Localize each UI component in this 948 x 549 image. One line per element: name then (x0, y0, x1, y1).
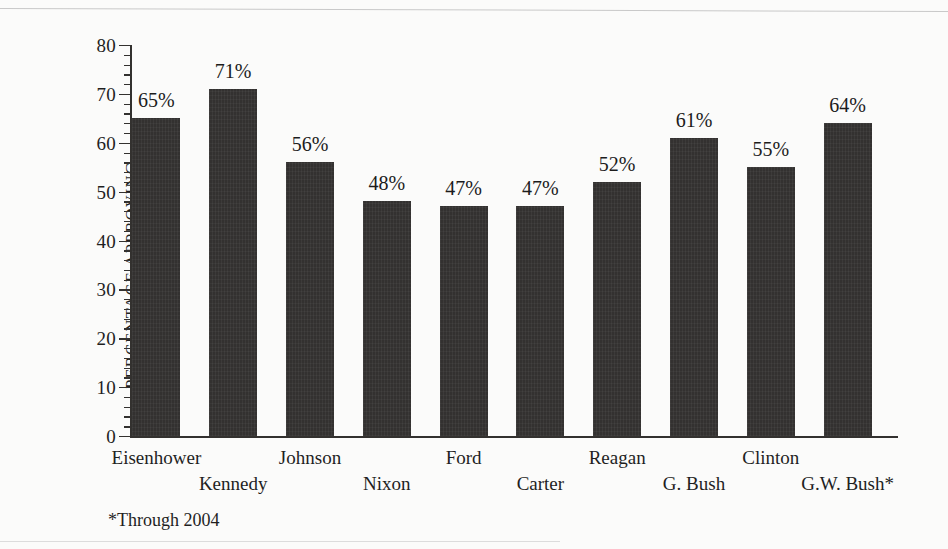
bar-value-label: 55% (752, 139, 789, 159)
y-tick-minor (124, 172, 130, 173)
bar-value-label: 52% (599, 154, 636, 174)
y-axis-line (130, 45, 132, 436)
y-tick-major (119, 45, 130, 46)
y-tick-minor (124, 123, 130, 124)
bar-value-label: 47% (445, 178, 482, 198)
y-tick-minor (124, 270, 130, 271)
bar (593, 182, 641, 436)
y-tick-minor (124, 201, 130, 202)
y-tick-label: 80 (96, 36, 116, 55)
y-tick-minor (124, 407, 130, 408)
y-tick-label: 0 (106, 427, 116, 446)
y-tick-label: 60 (96, 133, 116, 152)
y-tick-minor (124, 104, 130, 105)
bar-value-label: 47% (522, 178, 559, 198)
x-axis-label: Kennedy (199, 474, 268, 493)
x-axis-label: Ford (446, 448, 482, 467)
y-tick-minor (124, 319, 130, 320)
y-tick-major (119, 338, 130, 339)
x-axis-label: G. Bush (663, 474, 725, 493)
y-tick-minor (124, 221, 130, 222)
x-axis-label: Eisenhower (112, 448, 202, 467)
y-tick-minor (124, 250, 130, 251)
plot-area: 01020304050607080 65%71%56%48%47%47%52%6… (130, 45, 898, 436)
y-tick-minor (124, 328, 130, 329)
x-axis-label: Carter (517, 474, 564, 493)
bar-value-label: 64% (829, 95, 866, 115)
x-axis-line (130, 436, 898, 438)
y-tick-minor (124, 113, 130, 114)
y-tick-minor (124, 260, 130, 261)
bar-value-label: 61% (676, 110, 713, 130)
footnote: *Through 2004 (108, 511, 220, 529)
y-tick-minor (124, 309, 130, 310)
y-tick-minor (124, 416, 130, 417)
x-axis-label: Reagan (589, 448, 646, 467)
bar (747, 167, 795, 436)
y-tick-minor (124, 65, 130, 66)
y-tick-minor (124, 368, 130, 369)
x-axis-label: Clinton (742, 448, 799, 467)
y-tick-minor (124, 153, 130, 154)
y-tick-major (119, 143, 130, 144)
y-tick-minor (124, 377, 130, 378)
bar-value-label: 56% (292, 134, 329, 154)
bar (670, 138, 718, 436)
y-tick-minor (124, 74, 130, 75)
y-tick-label: 30 (96, 280, 116, 299)
bar (824, 123, 872, 436)
y-tick-minor (124, 358, 130, 359)
y-tick-minor (124, 231, 130, 232)
bar-value-label: 71% (215, 61, 252, 81)
bar (132, 118, 180, 436)
y-tick-label: 40 (96, 231, 116, 250)
y-tick-label: 10 (96, 378, 116, 397)
x-axis-label: Johnson (279, 448, 341, 467)
y-tick-minor (124, 426, 130, 427)
bottom-divider (0, 541, 560, 542)
y-tick-minor (124, 211, 130, 212)
y-tick-label: 20 (96, 329, 116, 348)
y-tick-major (119, 289, 130, 290)
bar (209, 89, 257, 436)
bar-value-label: 65% (138, 90, 175, 110)
bar (286, 162, 334, 436)
y-tick-minor (124, 162, 130, 163)
x-axis-label: Nixon (363, 474, 411, 493)
y-tick-label: 70 (96, 84, 116, 103)
chart-page: PERCENTAGE APPROVING 01020304050607080 6… (0, 0, 948, 549)
y-tick-major (119, 192, 130, 193)
y-tick-minor (124, 182, 130, 183)
bar (440, 206, 488, 436)
y-tick-major (119, 94, 130, 95)
y-tick-major (119, 387, 130, 388)
y-tick-minor (124, 133, 130, 134)
y-tick-major (119, 436, 130, 437)
y-tick-minor (124, 84, 130, 85)
y-tick-minor (124, 55, 130, 56)
x-axis-label: G.W. Bush* (801, 474, 894, 493)
top-divider (0, 8, 948, 12)
y-tick-minor (124, 280, 130, 281)
y-tick-label: 50 (96, 182, 116, 201)
bar (516, 206, 564, 436)
y-tick-minor (124, 299, 130, 300)
bar (363, 201, 411, 436)
bar-value-label: 48% (368, 173, 405, 193)
y-tick-minor (124, 397, 130, 398)
y-tick-minor (124, 348, 130, 349)
y-tick-major (119, 241, 130, 242)
